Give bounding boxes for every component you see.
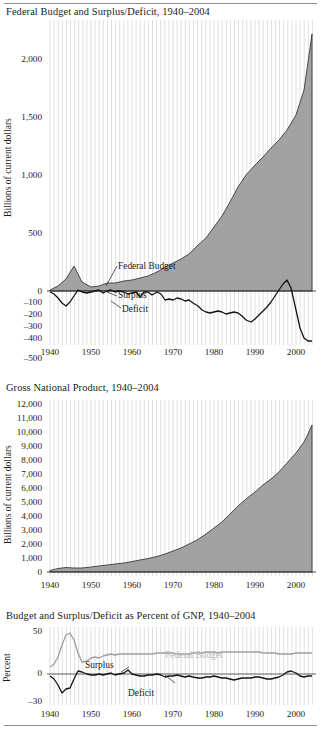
figure-2-xtick-1940: 1940 — [41, 580, 59, 590]
figure-3-xtick-1940: 1940 — [41, 709, 59, 719]
figure-3-xtick-1980: 1980 — [205, 709, 223, 719]
figure-2-ytick-7000: 7,000 — [0, 469, 42, 479]
figure-percent-of-gnp: Budget and Surplus/Deficit as Percent of… — [0, 610, 321, 725]
figure-1-annot-surplus: Surplus — [118, 290, 147, 300]
figure-1-ytick-neg500: –500 — [0, 353, 42, 363]
figure-2-xtick-1980: 1980 — [205, 580, 223, 590]
figure-1-ytick-1000: 1,000 — [0, 170, 42, 180]
figure-2-xtick-1990: 1990 — [246, 580, 264, 590]
figure-2-ytick-2000: 2,000 — [0, 539, 42, 549]
figure-2-ytick-12000: 12,000 — [0, 399, 42, 409]
figure-1-ytick-0: 0 — [0, 286, 42, 296]
figure-page: Federal Budget and Surplus/Deficit, 1940… — [0, 0, 321, 729]
figure-1-ylabel: Billions of current dollars — [2, 68, 13, 268]
figure-1-xtick-2000: 2000 — [287, 347, 305, 357]
figure-1-ytick-neg400: –400 — [0, 333, 42, 343]
figure-2-ytick-4000: 4,000 — [0, 511, 42, 521]
figure-1-xtick-1950: 1950 — [82, 347, 100, 357]
figure-3-xtick-2000: 2000 — [287, 709, 305, 719]
figure-3-xtick-1970: 1970 — [164, 709, 182, 719]
figure-1-title: Federal Budget and Surplus/Deficit, 1940… — [6, 6, 210, 17]
figure-1-ytick-500: 500 — [0, 228, 42, 238]
figure-3-ytick-0: 0 — [0, 668, 42, 678]
top-rule — [4, 3, 317, 4]
figure-2-ytick-9000: 9,000 — [0, 441, 42, 451]
figure-1-annot-federal-budget: Federal Budget — [118, 261, 176, 271]
figure-2-ytick-11000: 11,000 — [0, 413, 42, 423]
figure-3-xtick-1960: 1960 — [123, 709, 141, 719]
figure-1-xtick-1970: 1970 — [164, 347, 182, 357]
figure-1-ytick-neg300: –300 — [0, 321, 42, 331]
figure-1-ytick-neg100: –100 — [0, 297, 42, 307]
figure-federal-budget: Federal Budget and Surplus/Deficit, 1940… — [0, 6, 321, 366]
figure-3-title: Budget and Surplus/Deficit as Percent of… — [6, 610, 256, 621]
figure-2-ytick-3000: 3,000 — [0, 525, 42, 535]
figure-1-plot — [47, 20, 316, 345]
figure-2-ytick-5000: 5,000 — [0, 497, 42, 507]
figure-2-ytick-0: 0 — [0, 567, 42, 577]
figure-1-xtick-1960: 1960 — [123, 347, 141, 357]
figure-2-xtick-1960: 1960 — [123, 580, 141, 590]
figure-3-annot-federal-budget: Federal Budget — [165, 650, 223, 660]
figure-2-ytick-10000: 10,000 — [0, 427, 42, 437]
figure-2-ytick-1000: 1,000 — [0, 553, 42, 563]
figure-3-annot-surplus: Surplus — [85, 660, 114, 670]
figure-3-ytick-neg30: –30 — [0, 696, 42, 706]
figure-3-annot-deficit: Deficit — [128, 688, 154, 698]
figure-2-xtick-1950: 1950 — [82, 580, 100, 590]
figure-1-xtick-1990: 1990 — [246, 347, 264, 357]
figure-1-ytick-1500: 1,500 — [0, 112, 42, 122]
figure-2-xtick-1970: 1970 — [164, 580, 182, 590]
figure-1-ytick-2000: 2,000 — [0, 54, 42, 64]
figure-2-title: Gross National Product, 1940–2004 — [6, 382, 159, 393]
figure-2-plot — [47, 400, 316, 576]
figure-3-xtick-1990: 1990 — [246, 709, 264, 719]
figure-1-ytick-neg200: –200 — [0, 309, 42, 319]
figure-2-ytick-6000: 6,000 — [0, 483, 42, 493]
figure-2-xtick-2000: 2000 — [287, 580, 305, 590]
figure-3-ytick-50: 50 — [0, 626, 42, 636]
figure-1-annot-deficit: Deficit — [122, 304, 148, 314]
figure-1-xtick-1940: 1940 — [41, 347, 59, 357]
figure-3-xtick-1950: 1950 — [82, 709, 100, 719]
bottom-rule — [4, 725, 317, 726]
figure-2-ytick-8000: 8,000 — [0, 455, 42, 465]
figure-gross-national-product: Gross National Product, 1940–2004 Billio… — [0, 382, 321, 597]
figure-1-xtick-1980: 1980 — [205, 347, 223, 357]
